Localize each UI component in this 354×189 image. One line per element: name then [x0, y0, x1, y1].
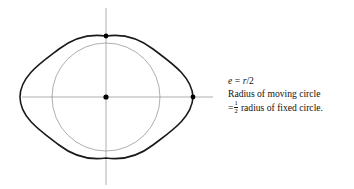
equals-sign: = [235, 75, 240, 86]
divisor-value: 2 [249, 75, 254, 86]
caption-line-moving-circle: Radius of moving circle [228, 87, 352, 100]
one-half-fraction: 1 2 [234, 100, 238, 115]
ratio-equals-sign: = [228, 102, 233, 113]
caption-line-eccentricity: e=r/2 [228, 74, 352, 87]
caption-block: e=r/2 Radius of moving circle = 1 2 radi… [228, 74, 352, 115]
top-cusp-point [104, 34, 109, 39]
center-point [103, 94, 108, 99]
ratio-text: radius of fixed circle. [241, 102, 323, 113]
right-vertex-point [191, 95, 196, 100]
eccentricity-symbol: e [228, 75, 232, 86]
caption-line-ratio: = 1 2 radius of fixed circle. [228, 100, 352, 115]
fraction-denominator: 2 [234, 108, 238, 115]
figure-screen: e=r/2 Radius of moving circle = 1 2 radi… [0, 0, 354, 189]
